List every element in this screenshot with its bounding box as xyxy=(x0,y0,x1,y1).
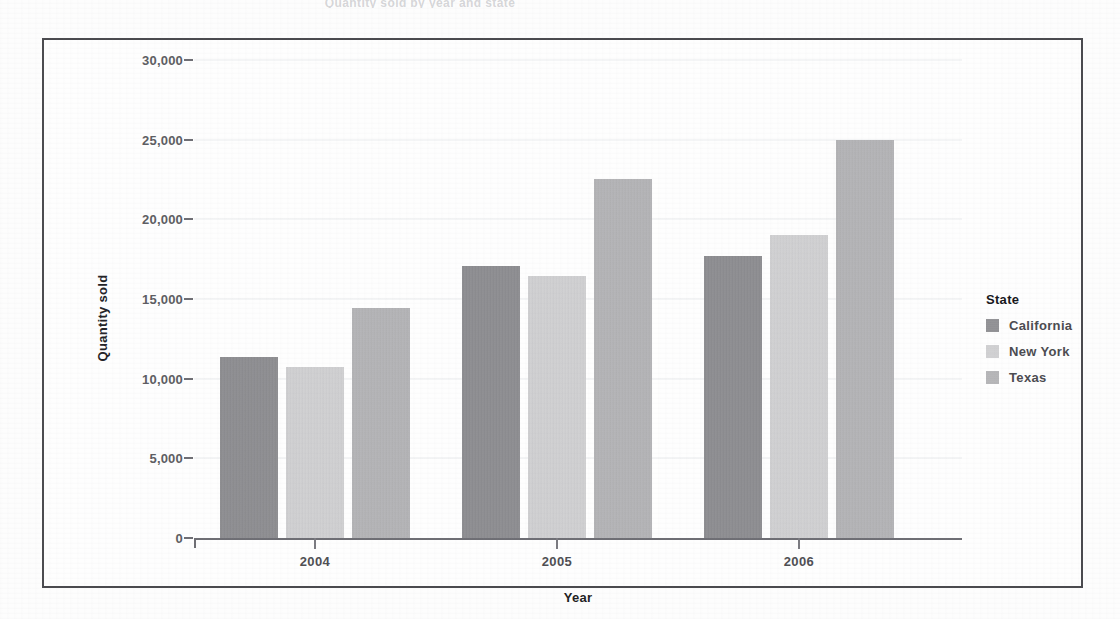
bar-texas-2005 xyxy=(594,179,652,538)
page-header-fragment: Quantity sold by year and state xyxy=(190,0,650,8)
y-axis-tick-mark xyxy=(184,218,193,220)
bar-california-2004 xyxy=(220,357,278,538)
y-axis-tick-mark xyxy=(184,457,193,459)
x-axis-tick-mark xyxy=(314,538,316,549)
y-axis-tick-mark xyxy=(184,378,193,380)
legend-item-label: New York xyxy=(1009,344,1070,359)
legend-swatch-icon xyxy=(986,345,999,358)
x-axis-tick-label-2005: 2005 xyxy=(542,554,573,569)
bar-texas-2004 xyxy=(352,308,410,538)
plot-area: 05,00010,00015,00020,00025,00030,000 xyxy=(194,60,962,538)
legend-swatch-icon xyxy=(986,319,999,332)
legend-item-california[interactable]: California xyxy=(986,318,1116,333)
y-axis-tick-mark xyxy=(184,139,193,141)
y-axis-tick-mark xyxy=(184,59,193,61)
legend-swatch-icon xyxy=(986,371,999,384)
legend: State CaliforniaNew YorkTexas xyxy=(986,292,1116,396)
bar-new-york-2004 xyxy=(286,367,344,538)
y-axis-tick-mark xyxy=(184,298,193,300)
legend-item-label: California xyxy=(1009,318,1072,333)
x-axis-line xyxy=(194,538,962,540)
x-axis-title: Year xyxy=(564,590,593,605)
bar-texas-2006 xyxy=(836,140,894,538)
x-axis-tick-label-2004: 2004 xyxy=(300,554,331,569)
x-axis-tick-label-2006: 2006 xyxy=(784,554,815,569)
legend-title: State xyxy=(986,292,1116,307)
y-axis-origin-tick xyxy=(194,538,196,548)
bar-new-york-2006 xyxy=(770,235,828,538)
y-axis-tick-mark xyxy=(184,537,193,539)
x-axis-tick-mark xyxy=(798,538,800,549)
x-axis-tick-mark xyxy=(556,538,558,549)
bar-california-2006 xyxy=(704,256,762,538)
legend-item-label: Texas xyxy=(1009,370,1047,385)
legend-item-texas[interactable]: Texas xyxy=(986,370,1116,385)
chart-frame: Quantity sold 05,00010,00015,00020,00025… xyxy=(42,38,1083,588)
legend-item-new-york[interactable]: New York xyxy=(986,344,1116,359)
bar-new-york-2005 xyxy=(528,276,586,538)
grid-line xyxy=(194,60,962,61)
y-axis-title: Quantity sold xyxy=(95,275,110,362)
bar-california-2005 xyxy=(462,266,520,538)
